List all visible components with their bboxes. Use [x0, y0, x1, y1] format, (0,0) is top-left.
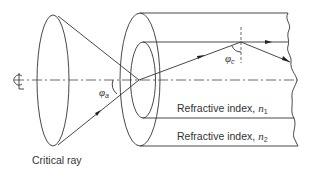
core-index-label: Refractive index, n1	[177, 102, 268, 115]
acceptance-cone-base	[37, 15, 69, 146]
acceptance-angle-arc	[112, 80, 117, 94]
cladding-index-label: Refractive index, n2	[177, 130, 268, 143]
boundary-ray-arrow-icon	[265, 40, 272, 44]
cone-upper-edge	[58, 16, 139, 80]
critical-ray-label: Critical ray	[32, 154, 82, 166]
fiber-break-line	[287, 13, 298, 146]
fiber-diagram: φa φc Refractive index, n1 Refractive in…	[0, 0, 313, 173]
reflected-ray-arrow-icon	[282, 56, 290, 62]
centerline-icon	[14, 73, 24, 89]
critical-angle-label: φc	[225, 52, 235, 65]
acceptance-angle-label: φa	[99, 86, 109, 99]
critical-angle-arc	[232, 46, 241, 52]
refracted-ray-arrow-icon	[197, 55, 205, 59]
